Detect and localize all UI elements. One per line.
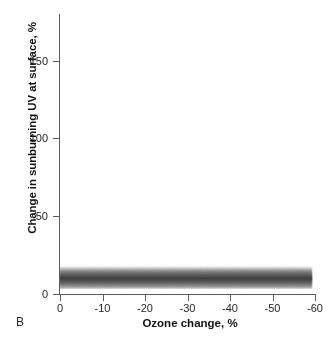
x-tick-mark xyxy=(188,295,189,301)
y-tick-mark xyxy=(53,216,60,217)
x-tick-label: 0 xyxy=(40,303,80,314)
x-tick-mark xyxy=(60,295,61,301)
y-tick-mark xyxy=(53,61,60,62)
y-tick-mark xyxy=(53,138,60,139)
x-tick-label: -40 xyxy=(210,303,250,314)
panel-label: B xyxy=(16,315,24,329)
x-tick-mark xyxy=(145,295,146,301)
x-tick-label: -50 xyxy=(253,303,293,314)
x-tick-label: -60 xyxy=(295,303,334,314)
x-tick-mark xyxy=(103,295,104,301)
chart-figure: 050100150 0-10-20-30-40-50-60 Change in … xyxy=(0,0,334,341)
y-axis-title: Change in sunburning UV at surface, % xyxy=(26,18,38,238)
y-tick-label: 0 xyxy=(14,289,48,300)
x-tick-label: -10 xyxy=(83,303,123,314)
x-tick-mark xyxy=(230,295,231,301)
x-axis-title: Ozone change, % xyxy=(100,317,280,329)
y-tick-mark xyxy=(53,294,60,295)
x-tick-mark xyxy=(315,295,316,301)
x-tick-label: -30 xyxy=(168,303,208,314)
plot-area xyxy=(60,14,315,294)
x-tick-label: -20 xyxy=(125,303,165,314)
x-tick-mark xyxy=(273,295,274,301)
uncertainty-band xyxy=(60,14,315,294)
